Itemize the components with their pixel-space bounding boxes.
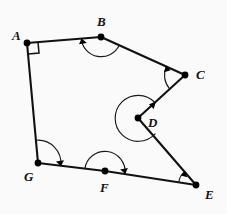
vertex-dot-f (102, 168, 109, 175)
angle-marker-b (79, 38, 119, 56)
edge-f-g (38, 163, 105, 171)
edge-g-a (27, 43, 38, 163)
geometry-figure: A B C D E F G (0, 0, 227, 214)
vertex-dot-c (182, 72, 189, 79)
vertex-label-g: G (24, 170, 33, 183)
edge-b-c (101, 37, 185, 75)
angle-arc-b (81, 39, 119, 57)
vertex-dot-d (135, 115, 142, 122)
vertex-label-c: C (196, 68, 205, 81)
vertex-label-d: D (148, 116, 157, 129)
angle-marker-c (164, 66, 171, 89)
polygon-edges (27, 37, 196, 185)
vertex-label-b: B (97, 15, 106, 28)
vertex-label-e: E (205, 188, 214, 201)
vertex-dot-e (193, 182, 200, 189)
vertex-dot-g (35, 160, 42, 167)
vertex-label-f: F (100, 181, 109, 194)
vertex-dot-a (24, 40, 31, 47)
vertex-dot-b (98, 34, 105, 41)
geometry-canvas (0, 0, 227, 214)
vertex-label-a: A (12, 29, 21, 42)
edge-d-e (138, 118, 196, 185)
